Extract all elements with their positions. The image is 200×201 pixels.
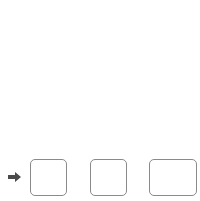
- factor-1-input-box[interactable]: [30, 159, 67, 196]
- right-arrow-icon: [8, 172, 21, 182]
- product-input-box[interactable]: [149, 159, 197, 196]
- factor-2-input-box[interactable]: [90, 159, 127, 196]
- line-grid-figure: [0, 0, 200, 150]
